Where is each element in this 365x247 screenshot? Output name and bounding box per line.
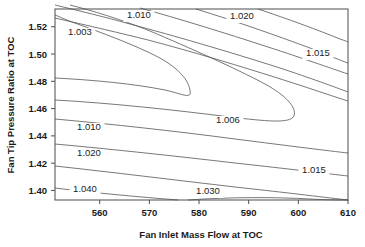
x-tick-label: 590 [241,207,257,218]
contour-level-label: 1.020 [230,10,254,21]
x-tick-label: 600 [290,207,306,218]
y-tick-label: 1.50 [29,49,48,60]
contour-path [55,5,294,121]
contour-level-label: 1.020 [77,147,101,158]
contour-level-label: 1.015 [302,164,326,175]
y-tick-label: 1.44 [29,130,48,141]
contour-level-label: 1.040 [73,183,97,194]
y-tick-label: 1.48 [29,76,48,87]
contour-plot-figure: 1.0031.0101.0201.0151.0061.0101.0201.015… [0,0,365,247]
contour-level-label: 1.006 [216,114,240,125]
y-axis-ticks [51,27,55,191]
contour-level-label: 1.030 [196,185,220,196]
y-tick-label: 1.52 [29,21,48,32]
contour-level-label: 1.003 [68,26,92,37]
y-axis-tick-labels: 1.401.421.441.461.481.501.52 [29,21,48,196]
contour-path [258,9,348,42]
x-tick-label: 610 [340,207,356,218]
y-axis-title: Fan Tip Pressure Ratio at TOC [5,36,16,173]
x-axis-tick-labels: 560570580590600610 [92,207,356,218]
contour-level-label: 1.010 [77,121,101,132]
x-axis-title: Fan Inlet Mass Flow at TOC [139,229,262,240]
contour-level-label: 1.015 [306,47,330,58]
x-tick-label: 560 [92,207,108,218]
y-tick-label: 1.40 [29,185,48,196]
contour-path [55,5,348,92]
contour-level-label: 1.010 [127,9,151,20]
x-axis-ticks [100,200,348,204]
y-tick-label: 1.46 [29,103,48,114]
x-tick-label: 580 [191,207,207,218]
chart-canvas: 1.0031.0101.0201.0151.0061.0101.0201.015… [0,0,365,247]
contour-labels-group: 1.0031.0101.0201.0151.0061.0101.0201.015… [68,9,330,196]
x-tick-label: 570 [141,207,157,218]
y-tick-label: 1.42 [29,158,48,169]
